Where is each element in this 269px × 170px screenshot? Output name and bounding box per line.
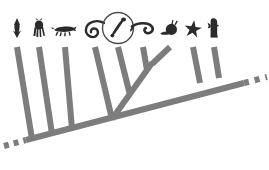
nematode-silhouette[interactable]	[86, 21, 104, 37]
tardigrade-silhouette[interactable]	[33, 18, 45, 37]
arrow-worm-silhouette[interactable]	[13, 18, 21, 38]
backbone-dash-left	[4, 140, 26, 146]
annelid-leech-silhouette[interactable]	[110, 18, 126, 38]
branch-velvet-worm	[65, 47, 72, 129]
branch-snail	[152, 47, 170, 64]
snail-silhouette[interactable]	[160, 20, 177, 35]
branch-tardigrade	[39, 47, 52, 134]
branch-sea-star	[193, 47, 200, 83]
bird-silhouette[interactable]	[208, 18, 220, 37]
backbone-dash-right	[244, 77, 267, 83]
cladogram-figure: A cladogram of nine animal silhouettes w…	[0, 0, 269, 170]
branch-flatworm	[143, 47, 147, 70]
sea-star-silhouette[interactable]	[183, 19, 202, 38]
branch-stem-to-inner-clade	[95, 47, 112, 119]
taxon-silhouettes-group	[13, 13, 219, 44]
branch-annelid	[118, 47, 130, 95]
branch-arrow-worm	[17, 47, 32, 139]
branch-bird	[214, 47, 219, 78]
velvet-worm-silhouette[interactable]	[51, 26, 76, 36]
terminal-branches-group	[17, 47, 219, 139]
cladogram-canvas	[0, 0, 269, 170]
